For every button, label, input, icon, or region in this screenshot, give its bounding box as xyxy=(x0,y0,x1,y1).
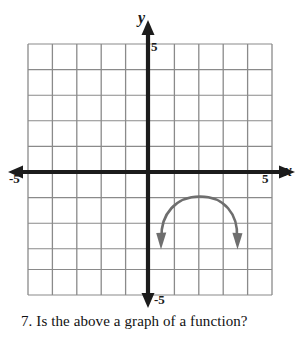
y-axis xyxy=(142,20,155,308)
x-axis xyxy=(8,166,295,179)
graph-figure: y x 5 -5 -5 5 xyxy=(0,0,306,312)
x-axis-label: x xyxy=(284,163,292,179)
worksheet-page: y x 5 -5 -5 5 7. Is the above a graph of… xyxy=(0,0,306,340)
y-axis-min-tick-label: -5 xyxy=(154,293,165,306)
x-axis-max-tick-label: 5 xyxy=(262,172,269,185)
question-caption: 7. Is the above a graph of a function? xyxy=(21,313,296,330)
y-axis-label: y xyxy=(138,10,145,26)
x-axis-min-tick-label: -5 xyxy=(9,172,20,185)
y-axis-max-tick-label: 5 xyxy=(151,40,158,53)
